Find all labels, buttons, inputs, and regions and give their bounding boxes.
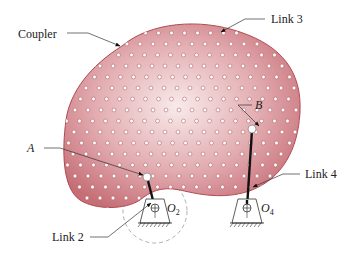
- label-point-b: B: [255, 99, 262, 111]
- label-link2: Link 2: [52, 231, 84, 243]
- label-o4-sub: 4: [270, 208, 274, 217]
- ground-pivot-o4: [230, 199, 264, 227]
- label-coupler: Coupler: [18, 28, 57, 40]
- label-point-a: A: [27, 142, 34, 154]
- leader-coupler: [67, 33, 120, 46]
- joint-a: [143, 173, 151, 181]
- label-o4: O4: [261, 202, 274, 217]
- coupler-body: [64, 24, 300, 208]
- label-o2-sub: 2: [176, 208, 180, 217]
- label-link3: Link 3: [271, 13, 303, 25]
- label-o2: O2: [167, 202, 180, 217]
- label-link4: Link 4: [305, 168, 337, 180]
- joint-b: [248, 125, 256, 133]
- label-o2-main: O: [167, 201, 176, 215]
- label-o4-main: O: [261, 201, 270, 215]
